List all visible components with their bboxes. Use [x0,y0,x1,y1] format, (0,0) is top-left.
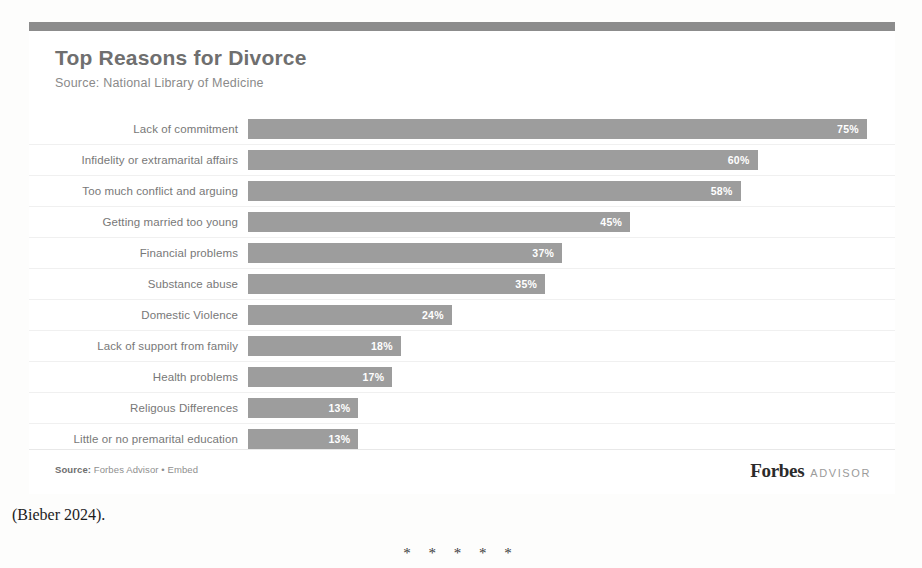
forbes-chart-embed: Top Reasons for Divorce Source: National… [29,22,895,494]
bar-value-label: 17% [362,371,384,383]
advisor-wordmark: ADVISOR [810,467,871,479]
bar-track: 37% [248,238,895,268]
chart-row: Domestic Violence24% [29,300,895,331]
chart-row: Getting married too young45% [29,207,895,238]
bar[interactable]: 37% [248,243,562,263]
bar-value-label: 75% [837,123,859,135]
chart-row: Too much conflict and arguing58% [29,176,895,207]
bar[interactable]: 45% [248,212,630,232]
bar-track: 60% [248,145,895,175]
bar-track: 45% [248,207,895,237]
bar-category-label: Little or no premarital education [29,433,248,445]
bar-value-label: 13% [328,433,350,445]
bar-track: 17% [248,362,895,392]
bar-track: 24% [248,300,895,330]
chart-title: Top Reasons for Divorce [55,46,307,70]
chart-row: Lack of support from family18% [29,331,895,362]
bar-category-label: Domestic Violence [29,309,248,321]
footer-source-prefix: Source: [55,464,91,475]
bar-value-label: 13% [328,402,350,414]
bar[interactable]: 17% [248,367,392,387]
bar-category-label: Lack of support from family [29,340,248,352]
chart-row: Infidelity or extramarital affairs60% [29,145,895,176]
bar-track: 13% [248,393,895,423]
bar-category-label: Religous Differences [29,402,248,414]
bar-category-label: Getting married too young [29,216,248,228]
section-break: * * * * * [0,545,922,562]
chart-row: Lack of commitment75% [29,114,895,145]
bar-value-label: 18% [371,340,393,352]
bar[interactable]: 35% [248,274,545,294]
bar[interactable]: 58% [248,181,741,201]
bar[interactable]: 13% [248,398,358,418]
bar-value-label: 37% [532,247,554,259]
chart-footer: Source: Forbes Advisor • Embed Forbes AD… [29,449,895,494]
bar[interactable]: 24% [248,305,452,325]
bar-track: 35% [248,269,895,299]
citation-text: (Bieber 2024). [12,506,105,524]
chart-row: Substance abuse35% [29,269,895,300]
document-page: Top Reasons for Divorce Source: National… [0,0,922,568]
bar-value-label: 24% [422,309,444,321]
bar-track: 18% [248,331,895,361]
bar[interactable]: 60% [248,150,758,170]
chart-header: Top Reasons for Divorce Source: National… [55,46,307,90]
footer-source-text: Source: Forbes Advisor • Embed [55,464,198,475]
bar-category-label: Infidelity or extramarital affairs [29,154,248,166]
bar-track: 75% [248,114,895,144]
bar[interactable]: 75% [248,119,867,139]
chart-row: Financial problems37% [29,238,895,269]
bar-category-label: Financial problems [29,247,248,259]
chart-subtitle: Source: National Library of Medicine [55,76,307,90]
chart-row: Religous Differences13% [29,393,895,424]
bar[interactable]: 13% [248,429,358,449]
bar-value-label: 58% [711,185,733,197]
bar-chart-plot-area: Lack of commitment75%Infidelity or extra… [29,114,895,444]
bar-category-label: Lack of commitment [29,123,248,135]
bar-value-label: 45% [600,216,622,228]
bar-category-label: Too much conflict and arguing [29,185,248,197]
bar-category-label: Substance abuse [29,278,248,290]
bar-value-label: 35% [515,278,537,290]
forbes-advisor-logo: Forbes ADVISOR [750,460,871,482]
bar-track: 58% [248,176,895,206]
bar-category-label: Health problems [29,371,248,383]
chart-row: Health problems17% [29,362,895,393]
bar[interactable]: 18% [248,336,401,356]
footer-source-rest: Forbes Advisor • Embed [91,464,198,475]
card-accent-bar [29,22,895,31]
bar-value-label: 60% [728,154,750,166]
forbes-wordmark: Forbes [750,460,804,482]
